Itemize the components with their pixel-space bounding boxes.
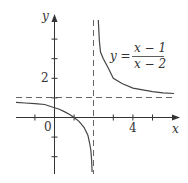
x-axis-label: x	[172, 122, 179, 136]
x-tick-label-4: 4	[129, 121, 137, 135]
origin-label: 0	[44, 120, 52, 134]
y-axis-arrow-icon	[52, 14, 58, 22]
equation-annotation: y = x − 1 x − 2	[109, 41, 166, 71]
y-axis-label: y	[41, 9, 49, 23]
equation-denominator: x − 2	[134, 57, 166, 71]
y-tick-label-2: 2	[41, 71, 49, 85]
function-plot: y x 0 4 2 y = x − 1 x − 2	[0, 0, 188, 183]
equation-lhs: y =	[109, 49, 131, 63]
equation-numerator: x − 1	[134, 41, 166, 55]
x-axis-arrow-icon	[172, 115, 180, 121]
